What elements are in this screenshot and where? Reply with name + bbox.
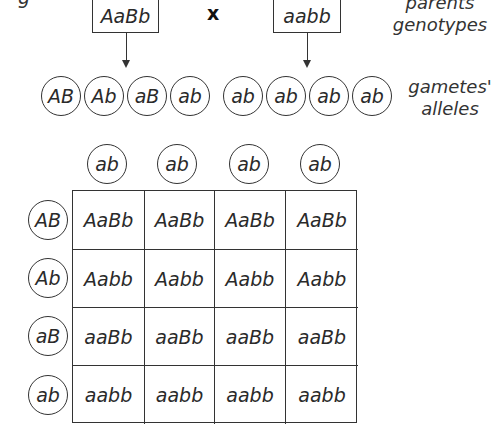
punnett-cell: Aabb [73, 250, 145, 308]
parent-genotype-right: aabb [273, 0, 341, 33]
gamete-right-2: ab [266, 76, 306, 116]
punnett-cell: aabb [145, 366, 215, 424]
column-header-4: ab [300, 144, 340, 184]
arrow-down-icon [303, 60, 311, 68]
punnett-cell: aaBb [145, 308, 215, 366]
punnett-cell: Aabb [215, 250, 286, 308]
punnett-cell: aabb [215, 366, 286, 424]
gamete-left-3: aB [127, 76, 167, 116]
parent-genotype-left: AaBb [92, 0, 159, 33]
punnett-cell: aaBb [215, 308, 286, 366]
punnett-cell: aabb [73, 366, 145, 424]
punnett-cell: aabb [286, 366, 358, 424]
row-header-2: Ab [28, 258, 68, 298]
punnett-cell: Aabb [145, 250, 215, 308]
punnett-cell: AaBb [145, 191, 215, 250]
parents-label-line1: parents [385, 0, 495, 14]
column-header-1: ab [87, 144, 127, 184]
cropped-title-fragment: g [18, 0, 30, 8]
row-header-3: aB [28, 316, 68, 356]
arrow-right-line [307, 33, 308, 61]
parents-label-line2: genotypes [385, 14, 495, 36]
gamete-right-3: ab [309, 76, 349, 116]
row-header-1: AB [28, 200, 68, 240]
punnett-cell: AaBb [215, 191, 286, 250]
arrow-left-line [126, 33, 127, 61]
gametes-alleles-label: gametes' alleles [400, 76, 495, 120]
gamete-left-2: Ab [84, 76, 124, 116]
column-header-2: ab [157, 144, 197, 184]
gamete-right-1: ab [223, 76, 263, 116]
punnett-cell: aaBb [286, 308, 358, 366]
parent-genotype-right-label: aabb [283, 5, 330, 27]
gametes-label-line2: alleles [400, 98, 495, 120]
gamete-left-1: AB [41, 76, 81, 116]
punnett-square: AaBb AaBb AaBb AaBb Aabb Aabb Aabb Aabb … [72, 190, 357, 423]
arrow-down-icon [122, 60, 130, 68]
column-header-3: ab [229, 144, 269, 184]
gamete-right-4: ab [352, 76, 392, 116]
punnett-cell: AaBb [73, 191, 145, 250]
gamete-left-4: ab [170, 76, 210, 116]
cross-symbol: x [207, 2, 219, 24]
punnett-cell: Aabb [286, 250, 358, 308]
gametes-label-line1: gametes' [400, 76, 495, 98]
row-header-4: ab [28, 375, 68, 415]
parent-genotype-left-label: AaBb [101, 5, 151, 27]
parents-genotypes-label: parents genotypes [385, 0, 495, 36]
punnett-cell: AaBb [286, 191, 358, 250]
punnett-cell: aaBb [73, 308, 145, 366]
